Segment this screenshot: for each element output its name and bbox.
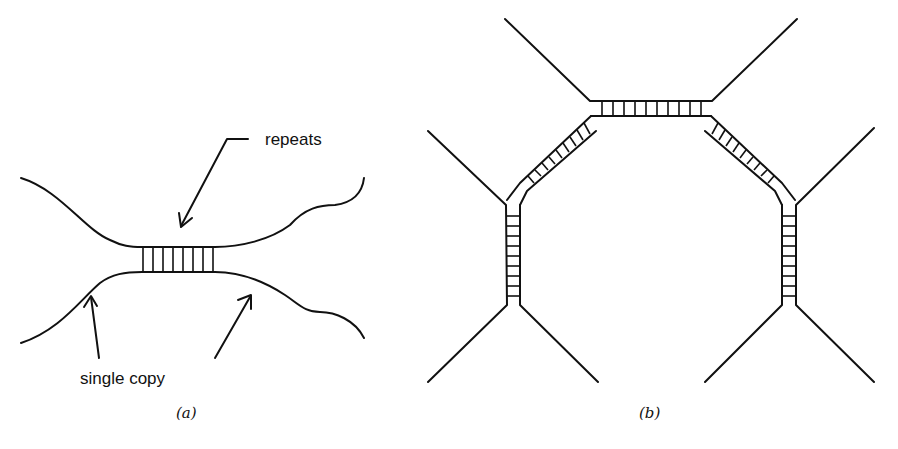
strand-upper-right-inner — [705, 131, 782, 205]
panel-a-caption: (a) — [176, 404, 197, 422]
upper-strand — [21, 178, 364, 247]
figure: repeats single copy (a) — [0, 0, 898, 449]
panel-a: repeats single copy (a) — [21, 130, 364, 422]
single-copy-arrow-right — [215, 295, 251, 358]
strand-top-left — [505, 19, 797, 101]
single-copy-label: single copy — [80, 369, 166, 388]
lower-strand — [21, 272, 364, 343]
upper-right-ladder-rungs — [712, 123, 774, 183]
top-ladder-rungs — [602, 102, 701, 115]
strand-right-inner-vertical — [705, 205, 782, 382]
strand-left-inner-vertical — [520, 205, 598, 382]
strand-left-arm-top — [428, 131, 507, 382]
left-vertical-ladder-rungs — [507, 216, 519, 296]
repeats-label: repeats — [265, 130, 322, 149]
single-copy-arrow-left — [84, 296, 99, 358]
strand-upper-left-inner — [520, 131, 596, 205]
panel-b: (b) — [428, 19, 874, 422]
repeat-rungs — [143, 248, 213, 271]
right-vertical-ladder-rungs — [783, 216, 795, 296]
upper-left-ladder-rungs — [528, 123, 590, 183]
strand-right-arm-top — [796, 128, 874, 382]
panel-b-caption: (b) — [639, 404, 660, 422]
repeats-arrow — [179, 139, 248, 227]
